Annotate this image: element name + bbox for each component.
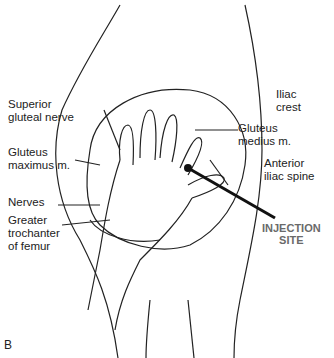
injection-point-marker (184, 164, 192, 172)
label-anterior-iliac-spine: Anterior iliac spine (264, 157, 315, 183)
injection-site-pointer (188, 168, 275, 218)
label-superior-gluteal-nerve: Superior gluteal nerve (8, 98, 74, 124)
label-injection-site: INJECTION SITE (262, 222, 321, 246)
label-gluteus-maximus: Gluteus maximus m. (8, 146, 70, 172)
label-iliac-crest: Iliac crest (276, 88, 301, 114)
label-greater-trochanter: Greater trochanter of femur (8, 214, 60, 253)
label-nerves: Nerves (8, 196, 44, 209)
diagram-canvas: Iliac crest Superior gluteal nerve Glute… (0, 0, 334, 358)
panel-letter: B (4, 338, 12, 352)
label-gluteus-medius: Gluteus medius m. (238, 122, 291, 148)
